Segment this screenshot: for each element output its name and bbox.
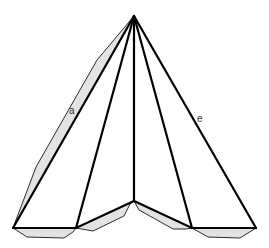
diagram-svg bbox=[0, 0, 269, 248]
fold-edges bbox=[13, 16, 256, 228]
fold-edge-4 bbox=[134, 16, 256, 228]
fold-edge-0 bbox=[13, 16, 134, 228]
fold-edge-1 bbox=[76, 16, 134, 228]
flap-bottom-1 bbox=[13, 228, 76, 238]
edge-label-e: e bbox=[197, 114, 203, 124]
fold-edge-3 bbox=[134, 16, 192, 228]
edge-label-a: a bbox=[69, 106, 75, 116]
flap-bottom-4 bbox=[192, 228, 256, 238]
base-edge bbox=[13, 201, 256, 228]
pyramid-net-diagram: a e bbox=[0, 0, 269, 248]
